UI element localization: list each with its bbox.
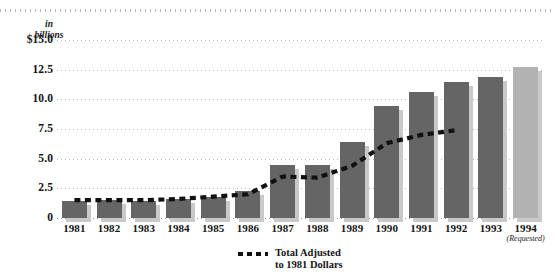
trend-line-total-adjusted: [74, 130, 456, 200]
y-axis-tick-label: $15.0: [1, 34, 53, 46]
legend-label-line2: to 1981 Dollars: [275, 259, 343, 271]
legend: Total Adjusted to 1981 Dollars: [238, 247, 343, 270]
x-axis-tick-label-1994: 1994: [496, 222, 555, 234]
y-axis-tick-label: 5.0: [1, 153, 53, 165]
y-axis: $15.012.510.07.55.02.50: [0, 40, 53, 218]
legend-dashed-line-icon: [238, 252, 268, 256]
bar-chart: in billions $15.012.510.07.55.02.50 1981…: [0, 0, 555, 278]
y-axis-tick-label: 7.5: [1, 123, 53, 135]
trend-line-svg: [57, 40, 543, 218]
x-axis-annotation-1994: (Requested): [496, 234, 555, 243]
legend-label: Total Adjusted to 1981 Dollars: [275, 247, 343, 270]
y-axis-tick-label: 12.5: [1, 64, 53, 76]
legend-label-line1: Total Adjusted: [275, 247, 343, 259]
scan-artifact-edge: [0, 9, 555, 12]
y-axis-tick-label: 10.0: [1, 93, 53, 105]
y-axis-units-line1: in: [26, 19, 72, 30]
y-axis-tick-label: 2.5: [1, 182, 53, 194]
trend-line-layer: [57, 40, 543, 218]
